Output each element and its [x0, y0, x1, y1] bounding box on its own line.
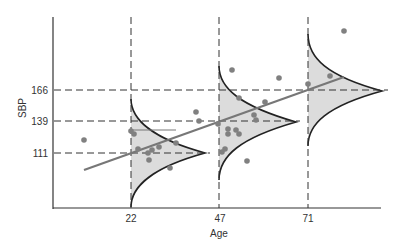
normal-curve-age-47	[219, 66, 296, 180]
x-tick-47: 47	[214, 213, 226, 224]
x-tick-71: 71	[302, 213, 314, 224]
data-points	[81, 28, 347, 171]
x-axis-label: Age	[210, 228, 228, 239]
y-axis-label: SBP	[17, 98, 28, 118]
y-tick-139: 139	[31, 116, 48, 127]
regression-line	[84, 77, 344, 170]
chart-canvas: 166 139 111 22 47 71 Age SBP	[0, 0, 401, 250]
x-tick-22: 22	[125, 213, 137, 224]
y-tick-111: 111	[33, 148, 49, 159]
y-tick-166: 166	[31, 85, 48, 96]
